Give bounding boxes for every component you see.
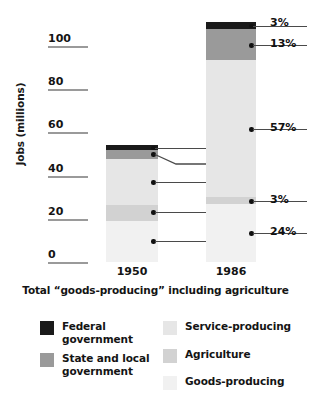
legend-item-goods-producing: Goods-producing	[163, 375, 303, 390]
y-tick-rule-80	[48, 89, 88, 91]
legend-label-line1: Federal	[62, 320, 106, 332]
bar-1986	[206, 22, 256, 262]
callout-line-1950-service	[155, 182, 211, 183]
legend-item-federal-government: Federal government	[40, 320, 160, 345]
y-tick-label-80: 80	[48, 75, 63, 88]
y-tick-label-0: 0	[48, 248, 56, 261]
legend-item-agriculture: Agriculture	[163, 348, 303, 363]
y-tick-rule-0	[48, 262, 88, 264]
callout-pct-1986-goods: 24%	[270, 225, 296, 238]
bar-label-1950: 1950	[106, 265, 158, 278]
legend-label-agriculture: Agriculture	[185, 348, 250, 361]
legend-label-goods-producing: Goods-producing	[185, 375, 284, 388]
y-tick-label-40: 40	[48, 162, 63, 175]
callout-pct-1986-service: 57%	[270, 121, 296, 134]
y-axis-title: Jobs (millions)	[14, 68, 26, 180]
y-tick-label-100: 100	[48, 32, 71, 45]
legend-label-line2: government	[62, 333, 133, 345]
callout-pct-1986-agriculture: 3%	[270, 193, 289, 206]
legend-item-service-producing: Service-producing	[163, 320, 303, 335]
y-tick-label-20: 20	[48, 205, 63, 218]
bar-label-1986: 1986	[206, 265, 256, 278]
legend-label-line2: government	[62, 365, 133, 377]
y-tick-rule-60	[48, 132, 88, 134]
chart-container: Jobs (millions) 100 80 60 40 20 0 1950 4…	[0, 0, 311, 399]
legend-swatch-goods-producing	[163, 376, 177, 390]
legend-label-service-producing: Service-producing	[185, 320, 291, 333]
legend-swatch-agriculture	[163, 349, 177, 363]
legend-swatch-state-and-local-government	[40, 353, 54, 367]
legend-label-federal-government: Federal government	[62, 320, 133, 345]
y-tick-label-60: 60	[48, 118, 63, 131]
legend-item-state-and-local-government: State and local government	[40, 352, 170, 377]
legend-swatch-service-producing	[163, 321, 177, 335]
y-tick-rule-100	[48, 46, 88, 48]
y-tick-rule-40	[48, 176, 88, 178]
callout-pct-1986-federal: 3%	[270, 16, 289, 29]
legend-swatch-federal-government	[40, 321, 54, 335]
y-tick-rule-20	[48, 219, 88, 221]
legend-label-state-and-local-government: State and local government	[62, 352, 149, 377]
callout-line-1950-goods	[155, 241, 211, 242]
legend-label-line1: State and local	[62, 352, 149, 364]
callout-line-1950-agriculture	[155, 212, 211, 213]
callout-pct-1986-state-local: 13%	[270, 37, 296, 50]
chart-caption: Total “goods-producing” including agricu…	[0, 284, 311, 296]
